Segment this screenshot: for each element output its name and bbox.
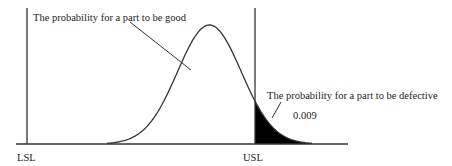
defective-tail-area xyxy=(255,101,312,144)
good-leader-line xyxy=(130,22,191,70)
good-annotation: The probability for a part to be good xyxy=(33,12,187,23)
spec-limit-diagram: The probability for a part to be good Th… xyxy=(0,0,452,166)
normal-distribution-curve xyxy=(107,25,312,143)
defective-annotation: The probability for a part to be defecti… xyxy=(267,90,438,101)
lsl-label: LSL xyxy=(17,152,36,163)
defective-value: 0.009 xyxy=(293,110,317,121)
usl-label: USL xyxy=(243,152,263,163)
defective-leader-line xyxy=(272,102,281,118)
